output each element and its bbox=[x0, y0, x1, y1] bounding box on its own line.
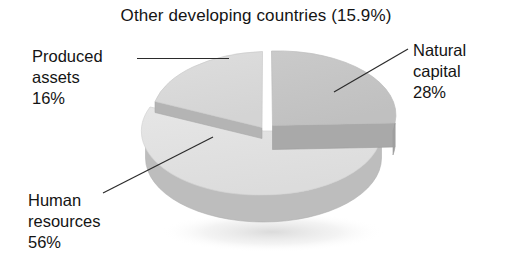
slice-label-natural-capital: Natural capital 28% bbox=[413, 40, 466, 103]
pie-chart-figure: Other developing countries (15.9%) bbox=[0, 0, 512, 276]
slice-label-produced-assets: Produced assets 16% bbox=[32, 46, 103, 109]
human-resources-label-line-1: Human bbox=[28, 190, 100, 211]
human-resources-value: 56% bbox=[28, 232, 100, 253]
natural-capital-label-line-2: capital bbox=[413, 61, 466, 82]
produced-assets-value: 16% bbox=[32, 88, 103, 109]
slice-top-natural-capital bbox=[272, 51, 396, 126]
human-resources-label-line-2: resources bbox=[28, 211, 100, 232]
slice-side-natural-capital bbox=[273, 123, 396, 150]
natural-capital-value: 28% bbox=[413, 82, 466, 103]
produced-assets-label-line-1: Produced bbox=[32, 46, 103, 67]
slice-label-human-resources: Human resources 56% bbox=[28, 190, 100, 253]
natural-capital-label-line-1: Natural bbox=[413, 40, 466, 61]
produced-assets-label-line-2: assets bbox=[32, 67, 103, 88]
